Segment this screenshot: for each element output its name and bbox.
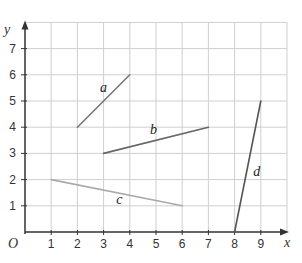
x-tick-label: 3 xyxy=(100,237,107,251)
y-tick-label: 6 xyxy=(9,68,16,82)
y-tick-label: 3 xyxy=(9,146,16,160)
x-tick-label: 8 xyxy=(231,237,238,251)
x-tick-label: 1 xyxy=(48,237,55,251)
line-label-c: c xyxy=(116,192,123,207)
x-tick-label: 4 xyxy=(126,237,133,251)
line-label-a: a xyxy=(100,80,107,95)
coordinate-grid-chart: 1234567891234567 abcd x y O xyxy=(0,0,302,263)
y-tick-label: 4 xyxy=(9,120,16,134)
tick-labels: 1234567891234567 xyxy=(9,42,264,251)
y-tick-label: 7 xyxy=(9,42,16,56)
line-label-b: b xyxy=(150,122,157,137)
y-tick-label: 1 xyxy=(9,199,16,213)
x-tick-label: 5 xyxy=(153,237,160,251)
line-label-d: d xyxy=(253,164,261,179)
y-tick-label: 2 xyxy=(9,173,16,187)
y-tick-label: 5 xyxy=(9,94,16,108)
origin-label: O xyxy=(8,236,18,251)
x-tick-label: 6 xyxy=(179,237,186,251)
x-tick-label: 9 xyxy=(257,237,264,251)
x-axis-label: x xyxy=(283,235,291,250)
y-axis-label: y xyxy=(2,22,11,37)
x-tick-label: 2 xyxy=(74,237,81,251)
y-axis-arrow-icon xyxy=(22,20,29,29)
x-tick-label: 7 xyxy=(205,237,212,251)
